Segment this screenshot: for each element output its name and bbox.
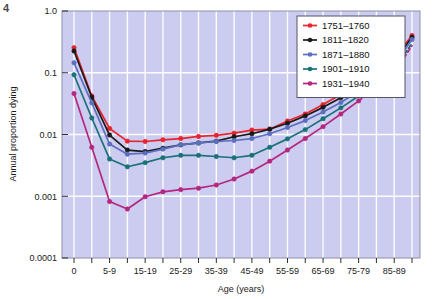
- x-tick-label: 55-59: [276, 266, 299, 276]
- data-point: [179, 136, 183, 140]
- figure-container: 4 1.00.10.010.0010.0001 05-915-1925-2935…: [0, 0, 433, 299]
- data-point: [321, 110, 325, 114]
- y-axis-title: Annual proportion dying: [8, 86, 18, 181]
- y-tick-label: 0.0001: [29, 253, 57, 263]
- data-point: [214, 133, 218, 137]
- data-point: [125, 207, 129, 211]
- x-tick-label: 0: [71, 266, 76, 276]
- data-point: [161, 156, 165, 160]
- data-point: [356, 99, 360, 103]
- data-point: [125, 152, 129, 156]
- data-point: [196, 141, 200, 145]
- data-point: [321, 105, 325, 109]
- data-point: [143, 195, 147, 199]
- legend-label: 1901–1910: [322, 63, 370, 74]
- data-point: [250, 169, 254, 173]
- data-point: [107, 157, 111, 161]
- data-point: [303, 118, 307, 122]
- data-point: [250, 153, 254, 157]
- x-axis: 05-915-1925-2935-3945-4955-5965-6975-798…: [71, 258, 412, 276]
- legend-label: 1931–1940: [322, 78, 370, 89]
- data-point: [161, 147, 165, 151]
- data-point: [214, 139, 218, 143]
- data-point: [339, 112, 343, 116]
- data-point: [72, 91, 76, 95]
- legend-swatch-marker: [308, 23, 313, 28]
- data-point: [107, 142, 111, 146]
- y-tick-label: 0.001: [34, 192, 57, 202]
- data-point: [410, 37, 414, 41]
- data-point: [196, 153, 200, 157]
- data-point: [214, 154, 218, 158]
- x-tick-label: 75-79: [347, 266, 370, 276]
- data-point: [285, 121, 289, 125]
- data-point: [339, 106, 343, 110]
- data-point: [232, 138, 236, 142]
- x-tick-label: 35-39: [205, 266, 228, 276]
- y-tick-label: 0.01: [39, 130, 57, 140]
- data-point: [250, 132, 254, 136]
- data-point: [267, 145, 271, 149]
- data-point: [267, 159, 271, 163]
- x-tick-label: 85-89: [383, 266, 406, 276]
- data-point: [321, 117, 325, 121]
- x-tick-label: 25-29: [169, 266, 192, 276]
- mortality-line-chart: 1.00.10.010.0010.0001 05-915-1925-2935-3…: [0, 0, 433, 299]
- data-point: [196, 134, 200, 138]
- y-tick-label: 1.0: [44, 6, 57, 16]
- data-point: [285, 148, 289, 152]
- data-point: [90, 116, 94, 120]
- data-point: [303, 114, 307, 118]
- data-point: [303, 136, 307, 140]
- data-point: [267, 132, 271, 136]
- legend-label: 1751–1760: [322, 20, 370, 31]
- data-point: [143, 139, 147, 143]
- data-point: [107, 199, 111, 203]
- data-point: [125, 148, 129, 152]
- legend-swatch-marker: [308, 38, 313, 43]
- data-point: [72, 61, 76, 65]
- chart-legend: 1751–17601811–18201871–18801901–19101931…: [297, 16, 405, 98]
- legend-swatch-marker: [308, 81, 313, 86]
- data-point: [179, 153, 183, 157]
- x-tick-label: 45-49: [240, 266, 263, 276]
- data-point: [285, 137, 289, 141]
- x-axis-title: Age (years): [218, 284, 265, 294]
- legend-swatch-marker: [308, 52, 313, 57]
- x-tick-label: 65-69: [312, 266, 335, 276]
- data-point: [107, 133, 111, 137]
- data-point: [90, 101, 94, 105]
- data-point: [285, 125, 289, 129]
- data-point: [267, 127, 271, 131]
- legend-label: 1811–1820: [322, 34, 369, 45]
- data-point: [179, 187, 183, 191]
- y-tick-label: 0.1: [44, 68, 57, 78]
- data-point: [125, 139, 129, 143]
- data-point: [143, 151, 147, 155]
- data-point: [232, 156, 236, 160]
- data-point: [232, 177, 236, 181]
- legend-label: 1871–1880: [322, 49, 370, 60]
- data-point: [339, 100, 343, 104]
- data-point: [321, 124, 325, 128]
- data-point: [90, 145, 94, 149]
- data-point: [250, 136, 254, 140]
- data-point: [125, 165, 129, 169]
- data-point: [196, 186, 200, 190]
- legend-swatch-marker: [308, 67, 313, 72]
- data-point: [214, 183, 218, 187]
- data-point: [161, 190, 165, 194]
- data-point: [72, 73, 76, 77]
- data-point: [179, 143, 183, 147]
- data-point: [72, 49, 76, 53]
- x-tick-label: 15-19: [134, 266, 157, 276]
- data-point: [303, 127, 307, 131]
- data-point: [161, 138, 165, 142]
- data-point: [143, 160, 147, 164]
- x-tick-label: 5-9: [103, 266, 116, 276]
